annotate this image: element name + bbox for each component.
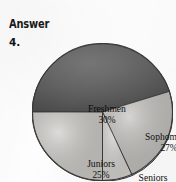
pie-slice-juniors-shading (32, 112, 103, 181)
pie-chart-svg (32, 43, 173, 181)
item-number: 4. (9, 36, 20, 48)
answer-figure-page: Answer 4. (0, 0, 176, 182)
pie-chart: Freshmen 30% Sophomores 27% Seniors 18% … (32, 43, 173, 181)
answer-heading: Answer (9, 17, 49, 31)
